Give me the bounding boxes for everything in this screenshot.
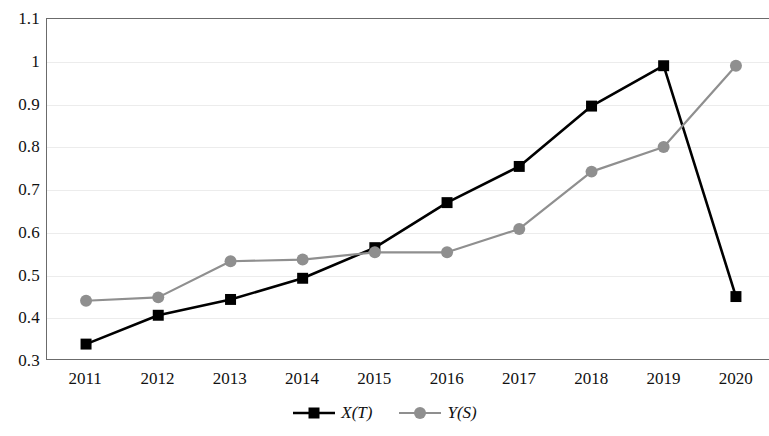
x-tick-label: 2016: [430, 370, 464, 387]
data-point-marker: [441, 246, 453, 258]
legend-label: X(T): [341, 404, 372, 421]
y-tick-label: 0.4: [18, 309, 40, 326]
series-line: [86, 66, 736, 301]
y-tick-label: 0.6: [18, 223, 40, 240]
y-tick-label: 0.7: [18, 181, 40, 198]
plot-area: [46, 18, 769, 360]
data-point-marker: [586, 166, 598, 178]
series-canvas: [47, 19, 769, 359]
data-point-marker: [730, 291, 741, 302]
series-line: [86, 66, 736, 344]
data-point-marker: [81, 339, 92, 350]
y-tick-label: 0.9: [18, 95, 40, 112]
x-tick-label: 2020: [719, 370, 753, 387]
legend: X(T)Y(S): [0, 404, 769, 421]
data-point-marker: [80, 295, 92, 307]
data-point-marker: [586, 101, 597, 112]
data-point-marker: [152, 291, 164, 303]
data-point-marker: [658, 60, 669, 71]
data-point-marker: [514, 161, 525, 172]
data-point-marker: [153, 310, 164, 321]
y-tick-label: 0.5: [18, 266, 40, 283]
x-tick-label: 2014: [285, 370, 319, 387]
y-tick-label: 0.8: [18, 138, 40, 155]
y-axis: 1.110.90.80.70.60.50.40.3: [0, 0, 44, 436]
y-tick-label: 1: [31, 52, 40, 69]
data-point-marker: [297, 273, 308, 284]
data-point-marker: [297, 254, 309, 266]
x-tick-label: 2015: [357, 370, 391, 387]
legend-entry[interactable]: X(T): [292, 404, 372, 421]
x-tick-label: 2011: [68, 370, 101, 387]
x-tick-label: 2019: [647, 370, 681, 387]
x-tick-label: 2012: [140, 370, 174, 387]
data-point-marker: [442, 197, 453, 208]
legend-label: Y(S): [447, 404, 476, 421]
data-point-marker: [513, 223, 525, 235]
line-chart: 1.110.90.80.70.60.50.40.3 20112012201320…: [0, 0, 769, 436]
data-point-marker: [658, 141, 670, 153]
data-point-marker: [369, 246, 381, 258]
x-axis: 2011201220132014201520162017201820192020: [46, 362, 769, 396]
legend-circle-marker-icon: [398, 405, 442, 421]
x-tick-label: 2018: [574, 370, 608, 387]
x-tick-label: 2013: [213, 370, 247, 387]
legend-entry[interactable]: Y(S): [398, 404, 476, 421]
data-point-marker: [225, 255, 237, 267]
legend-square-marker-icon: [292, 405, 336, 421]
y-tick-label: 0.3: [18, 352, 40, 369]
y-tick-label: 1.1: [18, 10, 40, 27]
data-point-marker: [225, 294, 236, 305]
data-point-marker: [730, 60, 742, 72]
x-tick-label: 2017: [502, 370, 536, 387]
